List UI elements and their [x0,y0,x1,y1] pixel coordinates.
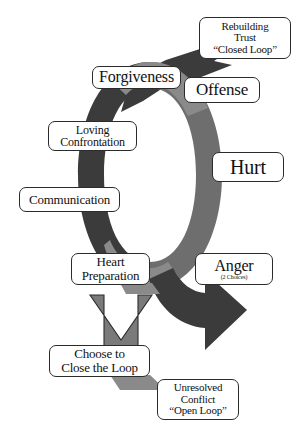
label-hurt-line1: Hurt [230,157,266,178]
label-hurt[interactable]: Hurt [212,152,284,182]
label-rebuilding-trust-line2: Trust [234,32,256,43]
label-heart-preparation[interactable]: Heart Preparation [71,253,150,285]
label-heart-preparation-line1: Heart [97,255,125,269]
label-offense[interactable]: Offense [184,77,260,103]
label-unresolved-conflict-line3: “Open Loop” [169,405,226,416]
label-loving-confrontation-line2: Confrontation [60,136,125,148]
label-forgiveness-line1: Forgiveness [99,69,174,86]
label-anger-line1: Anger [215,258,254,275]
label-communication-line1: Communication [29,193,110,207]
conflict-resolution-diagram: Rebuilding Trust “Closed Loop” Forgivene… [0,0,300,432]
label-anger-subtitle: (2 Choices) [221,274,248,280]
label-forgiveness[interactable]: Forgiveness [92,66,181,89]
label-choose-to-close-line1: Choose to [74,347,125,361]
label-rebuilding-trust-line3: “Closed Loop” [213,44,277,55]
label-offense-line1: Offense [196,81,248,99]
label-loving-confrontation[interactable]: Loving Confrontation [48,121,137,151]
label-rebuilding-trust[interactable]: Rebuilding Trust “Closed Loop” [199,17,291,59]
label-choose-to-close-the-loop[interactable]: Choose to Close the Loop [49,345,150,377]
arrow-up-to-heart-preparation [90,295,152,352]
label-communication[interactable]: Communication [19,187,120,212]
diagram-graphics [0,0,300,432]
label-unresolved-conflict[interactable]: Unresolved Conflict “Open Loop” [157,379,239,420]
label-anger[interactable]: Anger (2 Choices) [195,253,273,285]
label-heart-preparation-line2: Preparation [82,269,140,283]
label-choose-to-close-line2: Close the Loop [61,361,138,375]
